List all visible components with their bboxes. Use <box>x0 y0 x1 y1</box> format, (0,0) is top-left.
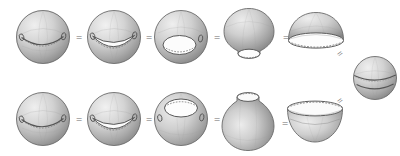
diagram-canvas: = = <box>0 0 400 156</box>
relation-top-1: = <box>76 32 82 43</box>
figure-sphere-with-open-slit-top <box>85 8 143 66</box>
figure-balloon-with-neck <box>218 6 280 68</box>
figure-sphere-with-two-latitudes <box>352 54 400 102</box>
figure-sphere-with-slit-bottom <box>14 90 72 148</box>
figure-vase-with-neck <box>216 88 280 154</box>
relation-bottom-1: = <box>76 114 82 125</box>
figure-bowl-open-upward <box>284 98 346 150</box>
figure-sphere-with-top-hole <box>152 88 210 148</box>
figure-sphere-with-slit-top <box>14 8 72 66</box>
figure-sphere-with-bottom-hole <box>152 8 210 66</box>
figure-sphere-with-open-slit-bottom <box>85 90 143 148</box>
